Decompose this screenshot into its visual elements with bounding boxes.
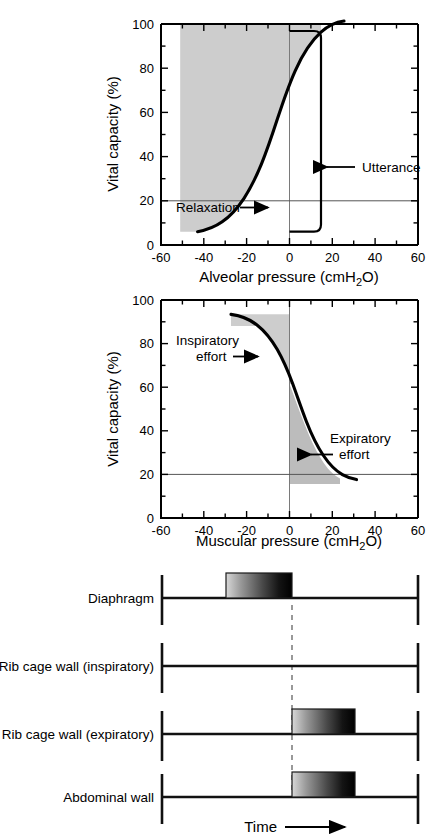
annotation-inspiratory-label-line1: Inspiratory	[176, 333, 239, 348]
x-axis-title-pre: Alveolar pressure (cmH	[199, 268, 356, 285]
inspiratory-effort-shaded-region	[231, 314, 293, 384]
annotation-expiratory-label-line1: Expiratory	[330, 431, 391, 446]
x-ticklabel--60: -60	[152, 250, 171, 265]
activation-bar-diaphragm	[226, 573, 292, 598]
timeline-chart: Diaphragm Rib cage wall (inspiratory) Ri…	[0, 547, 448, 838]
y-ticklabel-100: 100	[132, 17, 154, 32]
annotation-utterance: Utterance	[327, 160, 421, 175]
timeline-row-diaphragm: Diaphragm	[88, 573, 418, 625]
annotation-inspiratory-effort: Inspiratory effort	[176, 333, 258, 364]
time-axis-label: Time	[244, 818, 277, 835]
y-ticks	[161, 300, 168, 518]
activation-bar-abdominal-wall	[292, 772, 355, 797]
x-ticklabel-0: 0	[286, 250, 293, 265]
timeline-row-label-rib-cage-inspiratory: Rib cage wall (inspiratory)	[0, 659, 154, 674]
muscular-chart: 0 20 40 60 80 100 -60 -40 -20 0 20 40 60…	[0, 285, 448, 547]
annotation-relaxation-label: Relaxation	[176, 200, 240, 215]
y-ticklabel-20: 20	[140, 467, 154, 482]
annotation-inspiratory-label-line2: effort	[196, 349, 227, 364]
x-ticks	[161, 511, 418, 518]
y-ticklabel-80: 80	[140, 336, 154, 351]
activation-bar-rib-cage-expiratory	[292, 709, 355, 734]
annotation-expiratory-label-line2: effort	[339, 447, 370, 462]
alveolar-chart: 0 20 40 60 80 100 -60 -40 -20 0 20 40 60…	[0, 0, 448, 285]
x-ticklabel-60: 60	[411, 523, 425, 538]
time-axis-label-group: Time	[244, 818, 345, 835]
x-ticks-top	[182, 300, 396, 307]
y-ticklabel-60: 60	[140, 380, 154, 395]
panel-muscular-pressure: 0 20 40 60 80 100 -60 -40 -20 0 20 40 60…	[0, 285, 448, 547]
annotation-relaxation: Relaxation	[176, 200, 268, 215]
y-axis-title: Vital capacity (%)	[104, 76, 121, 192]
timeline-row-rib-cage-expiratory: Rib cage wall (expiratory)	[2, 709, 418, 761]
y-ticks-right	[411, 322, 418, 496]
y-axis-title: Vital capacity (%)	[104, 351, 121, 467]
x-ticklabel-20: 20	[325, 250, 339, 265]
timeline-row-abdominal-wall: Abdominal wall	[63, 772, 418, 824]
y-ticklabel-40: 40	[140, 149, 154, 164]
timeline-row-rib-cage-inspiratory: Rib cage wall (inspiratory)	[0, 643, 418, 693]
y-ticklabel-80: 80	[140, 61, 154, 76]
y-ticks-right	[411, 46, 418, 223]
y-ticklabel-100: 100	[132, 293, 154, 308]
panel-alveolar-pressure: 0 20 40 60 80 100 -60 -40 -20 0 20 40 60…	[0, 0, 448, 285]
timeline-row-label-diaphragm: Diaphragm	[88, 591, 154, 606]
timeline-row-label-abdominal-wall: Abdominal wall	[63, 790, 154, 805]
x-ticklabel--60: -60	[152, 523, 171, 538]
x-ticklabel--40: -40	[194, 250, 213, 265]
x-ticklabel-40: 40	[368, 250, 382, 265]
y-ticklabel-20: 20	[140, 193, 154, 208]
annotation-utterance-label: Utterance	[362, 160, 421, 175]
timeline-row-label-rib-cage-expiratory: Rib cage wall (expiratory)	[2, 727, 154, 742]
panel-muscle-activation-timeline: Diaphragm Rib cage wall (inspiratory) Ri…	[0, 547, 448, 838]
x-axis-title-post: O)	[362, 268, 379, 285]
x-ticklabel--20: -20	[237, 250, 256, 265]
x-ticklabel-60: 60	[411, 250, 425, 265]
y-ticklabel-40: 40	[140, 423, 154, 438]
y-ticklabel-60: 60	[140, 105, 154, 120]
y-ticks	[161, 24, 168, 245]
x-ticks	[161, 238, 418, 245]
